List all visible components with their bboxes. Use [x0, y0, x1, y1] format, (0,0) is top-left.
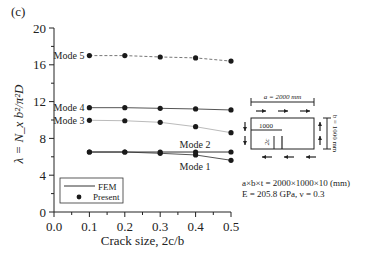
crack-offset-label: 1000: [259, 122, 274, 130]
arrowhead-icon: [284, 109, 288, 113]
x-tick-label: 0.3: [152, 219, 168, 234]
geometry-params: a×b×t = 2000×1000×10 (mm): [242, 178, 350, 189]
arrowhead-icon: [318, 136, 322, 140]
arrowhead-icon: [262, 155, 266, 159]
data-point: [158, 120, 163, 125]
data-point: [228, 59, 233, 64]
crack-length-label: 2c: [263, 138, 271, 146]
data-point: [228, 130, 233, 135]
legend-label: FEM: [98, 182, 117, 192]
x-tick-label: 0.2: [117, 219, 133, 234]
data-point: [87, 53, 92, 58]
x-tick-label: 0.4: [187, 219, 204, 234]
y-axis-title: λ = N_x b²/π²D: [11, 84, 26, 165]
arrowhead-icon: [306, 109, 310, 113]
x-tick-label: 0.1: [81, 219, 97, 234]
x-tick-label: 0.0: [46, 219, 62, 234]
plate-inset-diagram: a = 2000 mmb = 1000 mm10002c: [243, 93, 339, 159]
legend: FEMPresent: [60, 178, 123, 203]
data-point: [158, 106, 163, 111]
data-point: [122, 118, 127, 123]
mode-label: Mode 4: [54, 102, 85, 113]
series-layer: [87, 53, 234, 163]
x-axis-title: Crack size, 2c/b: [101, 233, 184, 248]
arrowhead-icon: [318, 122, 322, 126]
arrowhead-icon: [306, 155, 310, 159]
width-label: a = 2000 mm: [264, 93, 302, 101]
data-point: [193, 124, 198, 129]
x-tick-label: 0.5: [223, 219, 239, 234]
data-point: [158, 54, 163, 59]
data-point: [122, 53, 127, 58]
legend-label: Present: [93, 192, 120, 202]
data-point: [193, 55, 198, 60]
mode-label: Mode 2: [180, 139, 211, 150]
arrowhead-icon: [262, 109, 266, 113]
data-point: [228, 158, 233, 163]
mode-label: Mode 3: [54, 115, 85, 126]
data-point: [228, 149, 233, 154]
data-point: [158, 149, 163, 154]
data-point: [87, 149, 92, 154]
mode-labels: Mode 3Mode 4Mode 5Mode 2Mode 1: [54, 50, 211, 172]
data-point: [87, 118, 92, 123]
y-tick-label: 0: [40, 205, 47, 220]
height-label: b = 1000 mm: [331, 115, 339, 153]
y-tick-label: 12: [33, 94, 46, 109]
data-point: [193, 149, 198, 154]
material-parameters: a×b×t = 2000×1000×10 (mm) E = 205.8 GPa,…: [242, 178, 350, 200]
y-tick-label: 4: [40, 168, 47, 183]
data-point: [228, 107, 233, 112]
legend-marker-icon: [77, 195, 82, 200]
y-tick-label: 16: [33, 57, 47, 72]
mode-label: Mode 1: [180, 161, 211, 172]
y-tick-label: 20: [33, 21, 46, 36]
chart-canvas: 0481216200.00.10.20.30.40.5Crack size, 2…: [0, 0, 368, 263]
y-tick-label: 8: [40, 131, 47, 146]
mode-label: Mode 5: [54, 50, 85, 61]
material-params: E = 205.8 GPa, ν = 0.3: [242, 189, 350, 200]
arrowhead-icon: [243, 127, 247, 131]
arrowhead-icon: [243, 141, 247, 145]
data-point: [193, 106, 198, 111]
data-point: [87, 105, 92, 110]
data-point: [122, 105, 127, 110]
data-point: [122, 149, 127, 154]
arrowhead-icon: [284, 155, 288, 159]
